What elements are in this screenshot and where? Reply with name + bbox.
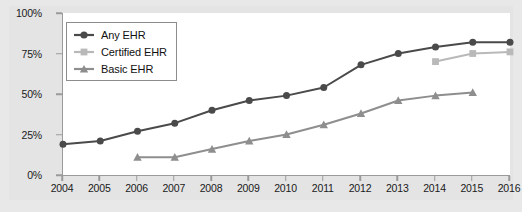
- data-point-marker[interactable]: [283, 92, 290, 99]
- y-axis: 0%25%50%75%100%: [0, 0, 56, 175]
- x-axis-tick-mark: [359, 176, 361, 181]
- x-axis-tick-label: 2011: [312, 182, 334, 194]
- x-axis-tick-mark: [61, 176, 63, 181]
- legend-label-any-ehr: Any EHR: [101, 29, 146, 41]
- chart-legend: Any EHR Certified EHR Basic EHR: [66, 22, 177, 81]
- data-point-marker[interactable]: [97, 137, 104, 144]
- x-axis-tick-mark: [322, 176, 324, 181]
- x-axis-tick-mark: [136, 176, 138, 181]
- x-axis-tick-label: 2007: [162, 182, 185, 194]
- legend-item-any-ehr[interactable]: Any EHR: [73, 27, 167, 42]
- data-point-marker[interactable]: [432, 58, 439, 65]
- data-point-marker[interactable]: [507, 39, 514, 46]
- y-axis-tick-label: 75%: [22, 48, 42, 60]
- legend-marker-circle-icon: [73, 29, 95, 41]
- y-axis-tick-label: 100%: [16, 7, 42, 19]
- y-axis-tick-label: 25%: [22, 129, 42, 141]
- x-axis-tick-label: 2015: [460, 182, 483, 194]
- data-point-marker[interactable]: [395, 50, 402, 57]
- series-line: [138, 92, 473, 157]
- x-axis-tick-label: 2014: [423, 182, 446, 194]
- data-point-marker[interactable]: [171, 120, 178, 127]
- data-point-marker[interactable]: [469, 50, 476, 57]
- legend-label-certified-ehr: Certified EHR: [101, 46, 167, 58]
- data-point-marker[interactable]: [246, 97, 253, 104]
- x-axis-tick-label: 2009: [237, 182, 260, 194]
- data-point-marker[interactable]: [358, 61, 365, 68]
- data-point-marker[interactable]: [469, 39, 476, 46]
- x-axis-tick-mark: [210, 176, 212, 181]
- x-axis-tick-mark: [99, 176, 101, 181]
- x-axis-tick-label: 2008: [200, 182, 223, 194]
- x-axis-tick-mark: [248, 176, 250, 181]
- x-axis-tick-label: 2010: [274, 182, 297, 194]
- x-axis-tick-mark: [471, 176, 473, 181]
- x-axis-tick-mark: [508, 176, 510, 181]
- data-point-marker[interactable]: [507, 48, 514, 55]
- data-point-marker[interactable]: [320, 84, 327, 91]
- ehr-adoption-line-chart: 0%25%50%75%100% 200420052006200720082009…: [0, 0, 522, 212]
- data-point-marker[interactable]: [209, 107, 216, 114]
- x-axis-tick-label: 2004: [51, 182, 74, 194]
- legend-item-basic-ehr[interactable]: Basic EHR: [73, 61, 167, 76]
- x-axis-tick-mark: [173, 176, 175, 181]
- legend-item-certified-ehr[interactable]: Certified EHR: [73, 44, 167, 59]
- legend-label-basic-ehr: Basic EHR: [101, 63, 153, 75]
- x-axis-tick-label: 2016: [498, 182, 521, 194]
- data-point-marker[interactable]: [134, 128, 141, 135]
- x-axis-tick-mark: [434, 176, 436, 181]
- x-axis-tick-label: 2013: [386, 182, 409, 194]
- legend-marker-square-icon: [73, 46, 95, 58]
- legend-marker-triangle-icon: [73, 63, 95, 75]
- y-axis-tick-label: 50%: [22, 88, 42, 100]
- x-axis-tick-mark: [285, 176, 287, 181]
- x-axis-tick-label: 2006: [125, 182, 148, 194]
- data-point-marker[interactable]: [432, 44, 439, 51]
- y-axis-tick-label: 0%: [27, 169, 42, 181]
- x-axis-tick-label: 2005: [88, 182, 111, 194]
- x-axis-tick-label: 2012: [349, 182, 372, 194]
- data-point-marker[interactable]: [60, 141, 67, 148]
- x-axis-tick-mark: [397, 176, 399, 181]
